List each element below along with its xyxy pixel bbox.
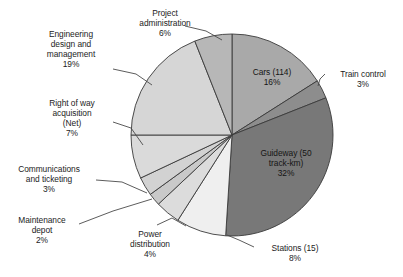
pie-slices-group (131, 34, 333, 236)
leader-line-communications (96, 180, 147, 193)
slice-label-stations: Stations (15) 8% (256, 243, 334, 263)
slice-label-project-administration: Project administration 6% (124, 8, 206, 38)
slice-label-power-distribution: Power distribution 4% (114, 229, 186, 259)
slice-label-engineering: Engineering design and management 19% (30, 29, 112, 69)
pie-chart-figure: Project administration 6% Engineering de… (0, 0, 403, 277)
slice-label-train-control: Train control 3% (327, 69, 399, 89)
leader-line-stations (227, 235, 254, 247)
leader-line-maintenance-depot (79, 199, 152, 224)
slice-label-communications: Communications and ticketing 3% (3, 164, 95, 194)
slice-label-maintenance-depot: Maintenance depot 2% (6, 215, 78, 245)
slice-label-cars: Cars (114) 16% (236, 67, 308, 87)
slice-label-guideway: Guideway (50 track-km) 32% (250, 148, 322, 178)
slice-label-right-of-way: Right of way acquisition (Net) 7% (32, 98, 112, 138)
